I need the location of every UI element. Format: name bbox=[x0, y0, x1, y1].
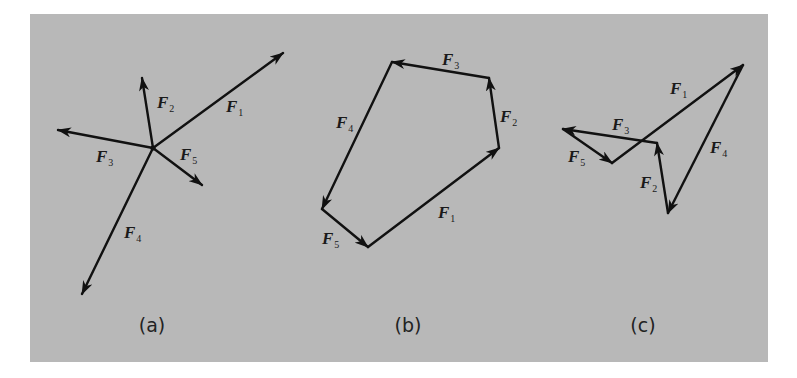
diagram-caption-c: (c) bbox=[630, 314, 655, 336]
diagram-caption-a: (a) bbox=[139, 314, 165, 336]
force-vector-figure: F1F2F3F4F5(a) F1F2F3F4F5(b) F1F4F2F3F5(c… bbox=[0, 0, 797, 378]
diagram-caption-b: (b) bbox=[395, 314, 422, 336]
